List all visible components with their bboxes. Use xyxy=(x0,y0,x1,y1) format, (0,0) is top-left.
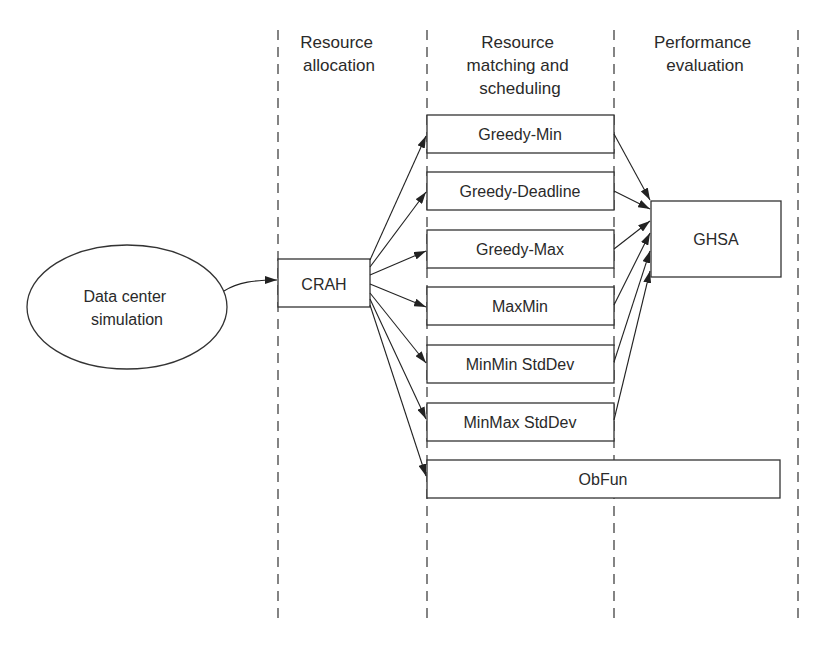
edge-greedy-deadline-ghsa xyxy=(614,191,650,209)
node-maxmin: MaxMin xyxy=(427,287,614,325)
edge-greedy-min-ghsa xyxy=(614,134,650,200)
node-greedy-min: Greedy-Min xyxy=(427,115,614,153)
svg-text:GHSA: GHSA xyxy=(693,231,739,248)
svg-text:MinMin StdDev: MinMin StdDev xyxy=(466,356,574,373)
svg-text:MinMax StdDev: MinMax StdDev xyxy=(464,414,577,431)
edge-crah-greedy-min xyxy=(370,136,426,260)
edge-crah-minmax xyxy=(370,299,426,419)
svg-text:CRAH: CRAH xyxy=(301,276,346,293)
edge-sim-crah xyxy=(224,280,277,291)
column-header-performance-evaluation: Performance evaluation xyxy=(654,33,756,75)
svg-text:Greedy-Min: Greedy-Min xyxy=(478,126,562,143)
edge-crah-obfun xyxy=(370,305,426,476)
svg-text:ObFun: ObFun xyxy=(579,471,628,488)
column-header-resource-allocation: Resource allocation xyxy=(300,33,378,75)
node-minmax-stddev: MinMax StdDev xyxy=(427,403,614,441)
node-crah: CRAH xyxy=(278,259,370,307)
svg-text:Greedy-Max: Greedy-Max xyxy=(476,241,564,258)
node-minmin-stddev: MinMin StdDev xyxy=(427,345,614,383)
svg-text:MaxMin: MaxMin xyxy=(492,298,548,315)
column-header-resource-matching: Resource matching and scheduling xyxy=(467,33,574,98)
edge-crah-greedy-deadline xyxy=(370,192,426,267)
node-greedy-max: Greedy-Max xyxy=(427,230,614,268)
workflow-diagram: Resource allocation Resource matching an… xyxy=(0,0,826,646)
svg-text:Greedy-Deadline: Greedy-Deadline xyxy=(460,183,581,200)
node-ghsa: GHSA xyxy=(651,201,781,277)
node-obfun: ObFun xyxy=(427,460,780,498)
node-data-center-simulation: Data center simulation xyxy=(27,245,227,369)
edge-crah-greedy-max xyxy=(370,251,426,275)
node-greedy-deadline: Greedy-Deadline xyxy=(427,172,614,210)
